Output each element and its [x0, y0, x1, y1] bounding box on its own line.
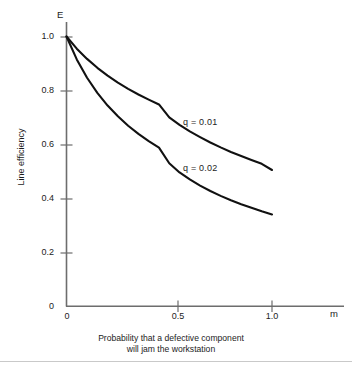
data-curve-q-0-02 — [67, 37, 273, 215]
y-tick-label-0-4: 0.4 — [28, 193, 54, 203]
y-axis-title: Line efficiency — [16, 112, 26, 202]
figure-caption-line-1: Probability that a defective component — [26, 333, 316, 344]
figure-caption: Probability that a defective component w… — [26, 333, 316, 355]
y-axis-symbol-label: E — [57, 10, 63, 20]
x-axis-symbol-label: m — [330, 309, 338, 319]
bottom-divider — [0, 361, 352, 362]
figure-caption-line-2: will jam the workstation — [26, 344, 316, 355]
series-label-q-0-01: q = 0.01 — [183, 117, 217, 127]
x-tick-label-0: 0 — [52, 311, 82, 321]
figure-container: E m 1.0 0.8 0.6 0.4 0.2 0 0 0.5 1.0 Line… — [0, 0, 352, 368]
y-tick-label-0-6: 0.6 — [28, 139, 54, 149]
x-tick-label-0-5: 0.5 — [163, 311, 193, 321]
x-tick-label-1-0: 1.0 — [257, 311, 287, 321]
y-tick-label-0-8: 0.8 — [28, 85, 54, 95]
y-tick-label-0: 0 — [28, 301, 54, 311]
series-label-q-0-02: q = 0.02 — [183, 163, 217, 173]
data-curve-q-0-01 — [67, 37, 273, 171]
y-tick-label-1-0: 1.0 — [28, 31, 54, 41]
y-tick-label-0-2: 0.2 — [28, 247, 54, 257]
